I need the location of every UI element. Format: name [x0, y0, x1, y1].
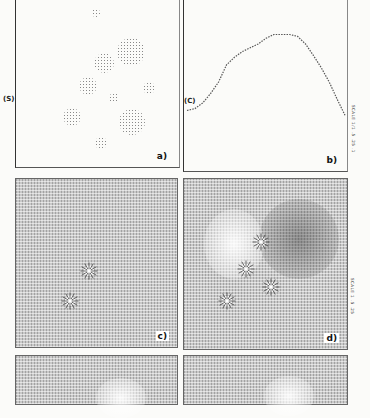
source-blob	[94, 53, 114, 73]
bright-region	[264, 376, 314, 416]
source-star-icon	[262, 278, 280, 296]
source-star-icon	[218, 292, 236, 310]
panel-a-side-label: (S)	[3, 95, 14, 103]
panel-c-label: c)	[156, 331, 169, 341]
panel-c: c)	[15, 178, 178, 348]
panel-a-label: a)	[157, 151, 167, 161]
panel-b: b)	[183, 0, 348, 172]
bright-region	[96, 378, 146, 418]
source-blob	[143, 82, 155, 94]
source-star-icon	[80, 262, 98, 280]
source-star-icon	[61, 292, 79, 310]
scale-bar-b: SCALE 1/1 .5 .25 .1	[351, 105, 356, 171]
source-blob	[79, 77, 97, 95]
panel-b-label: b)	[326, 155, 337, 165]
scale-bar-d: SCALE 1 .5 .25	[350, 278, 355, 338]
source-blob	[109, 93, 119, 103]
panel-e	[15, 355, 178, 405]
profile-line-chart	[184, 0, 349, 172]
source-star-icon	[252, 233, 270, 251]
source-distribution	[16, 0, 179, 167]
source-blob	[119, 109, 145, 135]
source-blob	[95, 137, 107, 149]
source-blob	[92, 9, 100, 17]
panel-a: a)	[15, 0, 180, 168]
panel-d: d)	[183, 178, 348, 350]
vector-field-sources	[184, 179, 347, 349]
panel-d-label: d)	[324, 333, 339, 343]
vector-field-sources	[16, 179, 177, 347]
source-blob	[63, 108, 81, 126]
source-star-icon	[237, 260, 255, 278]
panel-f	[183, 355, 348, 405]
panel-b-side-label: (C)	[184, 97, 196, 105]
source-blob	[117, 38, 145, 66]
